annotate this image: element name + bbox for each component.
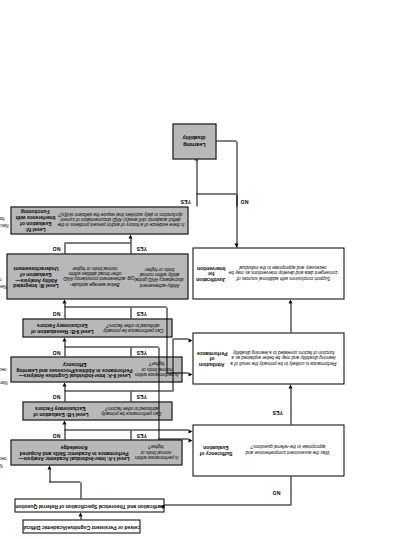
branch-l1b-vertical [64,390,130,391]
arrow-attribution-into-justification [288,299,292,303]
node-attribution-title: Attribution of Performance [196,349,227,366]
branch-l2a-vertical [64,346,130,347]
branch-l3-yes [130,243,131,253]
arrow-into-l2a [62,382,66,386]
arrow-into-l1b [62,420,66,424]
branch-l1b-to-l2a [64,386,65,391]
branch-l2a-yes [130,347,131,356]
node-level-4-title: Level IV: Evaluation of Interference wit… [14,209,56,232]
node-justification: Justification for Intervention Support c… [192,247,344,299]
label-sufficiency-yes: YES [272,409,283,415]
node-learning-disability: Learning disability [172,123,216,159]
branch-l1a-to-l1b [64,424,65,430]
label-l4-yes: YES [180,198,191,204]
node-level-4: Level IV: Evaluation of Interference wit… [10,206,188,234]
connector-l2a-yes-into-suff [158,438,188,439]
connector-sufficiency-yes [290,388,291,424]
arrow-sufficiency-no-into-clarification [160,504,164,508]
label-l1b-yes: YES [136,393,147,399]
node-attribution-question: Performance is unlikely to be primarily … [227,349,340,365]
branch-l3-to-l4 [130,238,131,243]
branch-l2b-no [64,307,65,318]
arrow-referral-to-clarification [78,512,82,516]
arrow-l4-no-into-justification [234,243,238,247]
label-l2a-yes: YES [136,349,147,355]
branch-l2a-to-l2b [64,341,65,347]
connector-sufficiency-no-back [290,476,291,505]
connector-l2b-yes-over [166,307,167,373]
arrow-l2b-yes-into-attribution [188,372,192,376]
label-l4-no: NO [240,198,248,204]
label-sufficiency-no: NO [272,489,280,495]
branch-l3-vertical [64,242,130,243]
connector-attribution-to-justification [290,303,291,332]
node-level-1b-question: Can performance be primarily attributed … [94,404,168,415]
node-level-2b-question: Can performance be primarily attributed … [97,321,168,332]
node-justification-title: Justification for Intervention [196,264,225,281]
label-l2b-no: NO [52,310,60,316]
arrow-l2a-yes-into-sufficiency [188,438,192,442]
note-level-1a: Normative weakness is necessary but not … [0,403,8,467]
node-justification-question: Support conclusions with additional sour… [225,264,340,280]
connector-sufficiency-no-riser [164,504,290,505]
branch-l1a-no [64,430,65,439]
arrow-into-l3 [62,299,66,303]
node-level-2a: Level II-A: Inter-Individual Cognitive A… [10,356,182,382]
branch-l2b-yes [130,307,131,318]
node-level-1a-question: Is performance within normal limits or h… [134,443,178,459]
node-level-2a-title: Level II-A: Inter-Individual Cognitive A… [14,360,134,377]
node-level-3-title: Level III: Integrated Ability Analysis—E… [10,265,61,288]
node-level-3: Level III: Integrated Ability Analysis—E… [6,253,188,299]
connector-l2a-yes-over [158,347,159,439]
connector-l1b-yes-over [172,339,173,391]
node-level-1b: Level I-B: Evaluation of Exclusionary Fa… [22,401,172,420]
node-level-2a-question: Is performance within normal limits or h… [134,360,178,376]
branch-l1a-yes [130,430,131,439]
branch-l2b-to-l3 [64,303,65,307]
rotated-diagram-container: Perceived or Persistent Cognitive/Academ… [0,0,399,539]
connector-clarification-to-l1a-riser [49,481,80,482]
node-clarification-label: Clarification and Theoretical Specificat… [14,502,164,508]
node-level-1a-title: Level I-A: Inter-Individual Academic Ana… [14,443,134,460]
note-level-4: Necessary and sufficient for LD determin… [0,177,8,227]
flowchart-canvas: Perceived or Persistent Cognitive/Academ… [0,0,399,539]
node-referral-difficulties-label: Perceived or Persistent Cognitive/Academ… [22,523,140,529]
node-level-2b: Level II-B: Reevaluation of Exclusionary… [22,318,172,337]
branch-l2b-vertical [64,306,130,307]
node-referral-difficulties: Perceived or Persistent Cognitive/Academ… [22,519,140,533]
branch-l1b-yes [130,391,131,401]
connector-ld-down [216,140,236,141]
node-level-1a: Level I-A: Inter-Individual Academic Ana… [10,439,182,465]
note-level-3: Necessary condition but not sufficient f… [0,234,8,288]
connector-l1b-yes-down [130,390,172,391]
arrow-l1b-yes-into-attribution [188,338,192,342]
label-l2b-yes: YES [136,310,147,316]
node-level-3-question2: Ability-achievement discrepancy AND glob… [134,265,184,286]
arrow-into-l2b [62,337,66,341]
node-level-4-question: Is there evidence of a history of and/or… [56,211,184,227]
label-l2a-no: NO [52,349,60,355]
label-l3-no: NO [52,245,60,251]
connector-l2a-yes-down [130,346,158,347]
node-learning-disability-label: Learning disability [175,135,213,147]
branch-l4-vertical [196,193,236,194]
connector-l2b-yes-into-attrib [166,372,188,373]
connector-clarification-to-l1a-top [49,469,50,482]
connector-l1b-yes-into-attrib [172,338,188,339]
node-sufficiency-question: Was the assessment comprehensive and app… [235,444,340,455]
node-clarification: Clarification and Theoretical Specificat… [14,498,164,512]
node-level-2b-title: Level II-B: Reevaluation of Exclusionary… [26,322,97,333]
node-sufficiency: Sufficiency of Evaluation Was the assess… [192,424,344,476]
node-level-1b-title: Level I-B: Evaluation of Exclusionary Fa… [26,405,94,416]
branch-l3-no [64,243,65,253]
connector-ld-to-justification [236,141,237,194]
label-l1a-no: NO [52,432,60,438]
node-level-3-or: OR [127,273,134,278]
label-l1b-no: NO [52,393,60,399]
label-l1a-yes: YES [136,432,147,438]
branch-l2a-no [64,347,65,356]
node-attribution: Attribution of Performance Performance i… [192,332,344,384]
note-level-2a: Normative weakness related to academic w… [0,314,8,384]
branch-l1a-vertical [64,429,130,430]
node-sufficiency-title: Sufficiency of Evaluation [196,444,235,455]
